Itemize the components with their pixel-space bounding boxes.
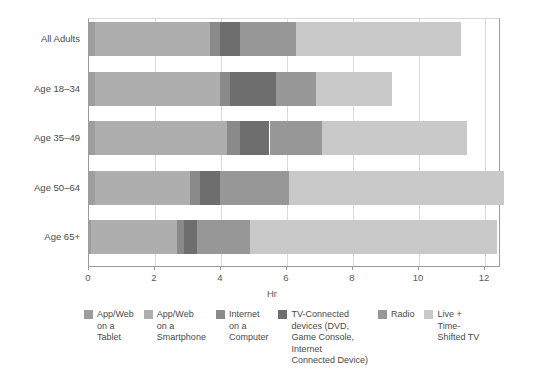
- category-label: All Adults: [0, 33, 80, 44]
- bar-segment: [270, 121, 323, 155]
- bar-segment: [276, 72, 316, 106]
- x-axis-tick: [352, 266, 353, 270]
- legend-swatch-icon: [144, 310, 153, 319]
- x-axis-tick: [286, 266, 287, 270]
- bar-segment: [88, 72, 95, 106]
- legend-item[interactable]: Radio: [378, 309, 415, 321]
- x-axis-tick: [154, 266, 155, 270]
- legend-swatch-icon: [216, 310, 225, 319]
- x-axis-tick-label: 8: [349, 272, 354, 283]
- x-axis-tick-label: 2: [151, 272, 156, 283]
- legend-label: Live + Time- Shifted TV: [437, 309, 479, 344]
- x-axis-line: [88, 266, 500, 267]
- x-axis-tick: [484, 266, 485, 270]
- bar-segment: [289, 171, 504, 205]
- bar-segment: [95, 121, 227, 155]
- x-axis-tick-label: 10: [413, 272, 424, 283]
- bar-segment: [220, 171, 289, 205]
- category-label: Age 18–34: [0, 83, 80, 94]
- legend-swatch-icon: [378, 310, 387, 319]
- x-axis-tick-label: 4: [217, 272, 222, 283]
- chart-container: 024681012All AdultsAge 18–34Age 35–49Age…: [0, 0, 544, 390]
- legend-swatch-icon: [84, 310, 93, 319]
- legend-swatch-icon: [424, 310, 433, 319]
- legend-swatch-icon: [278, 310, 287, 319]
- bar-segment: [220, 72, 230, 106]
- bar-segment: [200, 171, 220, 205]
- bar-segment: [220, 22, 240, 56]
- bar-segment: [227, 121, 240, 155]
- legend-item[interactable]: TV-Connected devices (DVD, Game Console,…: [278, 309, 368, 367]
- bar-segment: [88, 22, 95, 56]
- bar-segment: [95, 171, 191, 205]
- bar-segment: [91, 220, 177, 254]
- legend-item[interactable]: App/Web on a Smartphone: [144, 309, 206, 344]
- category-label: Age 50–64: [0, 182, 80, 193]
- bar-segment: [95, 22, 211, 56]
- x-axis-tick: [88, 266, 89, 270]
- legend-label: App/Web on a Tablet: [97, 309, 134, 344]
- category-label: Age 65+: [0, 231, 80, 242]
- bar-segment: [240, 121, 270, 155]
- legend-label: Internet on a Computer: [229, 309, 269, 344]
- legend-item[interactable]: App/Web on a Tablet: [84, 309, 134, 344]
- x-axis-tick: [418, 266, 419, 270]
- bar-segment: [95, 72, 220, 106]
- bar-segment: [190, 171, 200, 205]
- x-axis-tick-label: 6: [283, 272, 288, 283]
- legend-label: App/Web on a Smartphone: [157, 309, 206, 344]
- bar-segment: [177, 220, 184, 254]
- legend-item[interactable]: Live + Time- Shifted TV: [424, 309, 479, 344]
- bar-segment: [322, 121, 467, 155]
- legend-item[interactable]: Internet on a Computer: [216, 309, 269, 344]
- x-axis-tick-label: 0: [85, 272, 90, 283]
- category-label: Age 35–49: [0, 132, 80, 143]
- x-axis-title: Hr: [0, 288, 544, 299]
- legend-label: Radio: [391, 309, 415, 321]
- chart-legend: App/Web on a TabletApp/Web on a Smartpho…: [84, 309, 532, 367]
- bar-segment: [240, 22, 296, 56]
- bar-segment: [316, 72, 392, 106]
- bar-segment: [250, 220, 498, 254]
- bar-segment: [184, 220, 197, 254]
- x-axis-tick: [220, 266, 221, 270]
- legend-label: TV-Connected devices (DVD, Game Console,…: [291, 309, 368, 367]
- bar-segment: [88, 121, 95, 155]
- x-axis-tick-label: 12: [479, 272, 490, 283]
- bar-segment: [88, 171, 95, 205]
- bar-segment: [296, 22, 461, 56]
- bar-segment: [197, 220, 250, 254]
- bar-segment: [230, 72, 276, 106]
- bar-segment: [210, 22, 220, 56]
